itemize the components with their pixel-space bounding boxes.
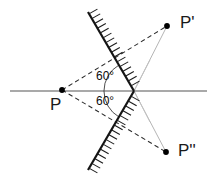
thin-reflected-rays: [134, 26, 167, 152]
point-markers: [59, 23, 170, 155]
label-angle-bottom: 60°: [96, 95, 114, 107]
dashed-construction-rays: [62, 26, 167, 152]
point-marker-p-prime: [164, 23, 170, 29]
reflection-diagram: P P' P'' 60° 60°: [0, 0, 217, 174]
label-point-p-double-prime: P'': [178, 142, 196, 159]
point-marker-p-double-prime: [163, 149, 169, 155]
thin-ray-extension-upper: [134, 60, 150, 91]
thin-ray-extension-lower: [134, 91, 150, 122]
point-marker-p: [59, 87, 65, 93]
label-angle-top: 60°: [96, 70, 114, 82]
label-point-p: P: [50, 96, 61, 113]
label-point-p-prime: P': [180, 14, 195, 31]
